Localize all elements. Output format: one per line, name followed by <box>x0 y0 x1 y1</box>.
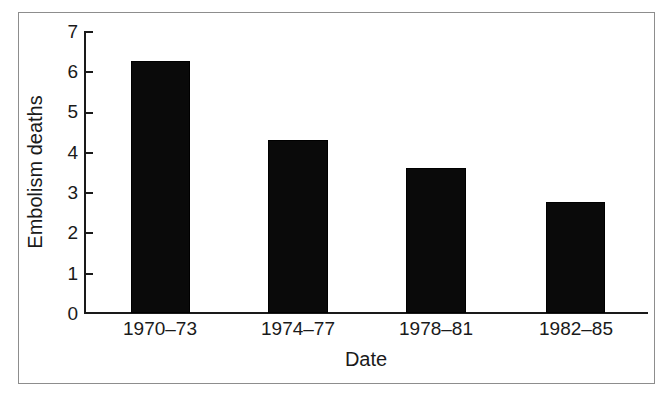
y-axis-tick-label: 1 <box>52 264 78 283</box>
y-axis-tick-label: 5 <box>52 102 78 121</box>
y-axis-title-wrapper: Embolism deaths <box>22 31 48 313</box>
y-axis-tick-label: 4 <box>52 143 78 162</box>
y-axis-tick-label: 2 <box>52 223 78 242</box>
y-axis-tick <box>86 192 93 194</box>
x-axis-tick-label: 1970–73 <box>100 318 220 340</box>
y-axis-tick <box>86 273 93 275</box>
y-axis-tick <box>86 232 93 234</box>
y-axis-tick <box>86 71 93 73</box>
y-axis-tick-label: 7 <box>52 22 78 41</box>
x-axis-tick-label-group: 1970–73 1974–77 1978–81 1982–85 <box>0 318 671 342</box>
y-axis-line <box>84 31 86 314</box>
x-axis-tick-label: 1974–77 <box>238 318 358 340</box>
x-axis-tick-label: 1978–81 <box>376 318 496 340</box>
y-axis-tick <box>86 152 93 154</box>
bar-1974-77 <box>268 140 328 313</box>
bar-1978-81 <box>406 168 466 313</box>
y-axis-tick-label: 3 <box>52 183 78 202</box>
y-axis-tick <box>86 31 93 33</box>
bar-1982-85 <box>546 202 605 313</box>
bar-1970-73 <box>131 61 190 313</box>
y-axis-title: Embolism deaths <box>24 95 46 248</box>
x-axis-title: Date <box>84 347 648 371</box>
x-axis-tick-label: 1982–85 <box>516 318 636 340</box>
y-axis-tick-label: 6 <box>52 62 78 81</box>
y-axis-tick <box>86 112 93 114</box>
